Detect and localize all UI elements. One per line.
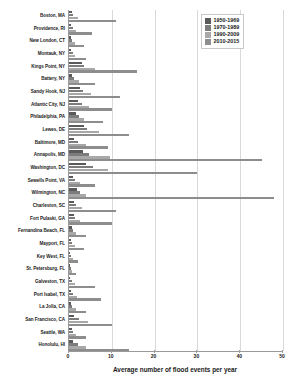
x-tick-label: 0 [67,353,70,359]
category-label: Philadelphia, PA [0,115,65,120]
category-label: Montauk, NY [0,52,65,57]
legend-swatch-icon [205,32,211,38]
legend-label: 1950-1969 [214,18,240,23]
bar-group [69,86,282,99]
category-label: Sandy Hook, NJ [0,90,65,95]
bar-group [69,61,282,74]
bar-group [69,175,282,188]
category-label: Honolulu, HI [0,343,65,348]
category-label: St. Petersburg, FL [0,267,65,272]
legend-item[interactable]: 1970-1989 [205,25,239,31]
category-label: Port Isabel, TX [0,293,65,298]
flood-events-bar-chart: Boston, MAProvidence, RINew London, CTMo… [0,0,288,390]
bar-group [69,238,282,251]
legend-label: 1990-2009 [214,32,240,37]
bar-group [69,48,282,61]
category-label: Galveston, TX [0,280,65,285]
bar-group [69,225,282,238]
bar-group [69,301,282,314]
bar-group [69,23,282,36]
bar-group [69,137,282,150]
category-label: Boston, MA [0,14,65,19]
bar-group [69,149,282,162]
x-tick-label: 20 [151,353,157,359]
x-tick-label: 10 [108,353,114,359]
category-label: Charleston, SC [0,204,65,209]
bar-group [69,314,282,327]
bar-group [69,10,282,23]
bar-rows [69,10,282,351]
category-label: Sewells Point, VA [0,179,65,184]
bar-group [69,162,282,175]
category-label: La Jolla, CA [0,305,65,310]
category-label: Atlantic City, NJ [0,103,65,108]
category-label: Battery, NY [0,77,65,82]
bar-group [69,263,282,276]
legend-swatch-icon [205,18,211,24]
bar-group [69,200,282,213]
category-label: Mayport, FL [0,242,65,247]
x-tick-label: 50 [279,353,285,359]
category-axis-labels: Boston, MAProvidence, RINew London, CTMo… [0,10,65,352]
x-tick-label: 40 [236,353,242,359]
gridline [283,10,284,351]
bar-group [69,276,282,289]
category-label: New London, CT [0,39,65,44]
legend-swatch-icon [205,25,211,31]
x-axis-ticks: 01020304050 [68,353,282,363]
bar-group [69,327,282,340]
bar-group [69,111,282,124]
legend-label: 2010-2015 [214,39,240,44]
category-label: Providence, RI [0,27,65,32]
category-label: Seattle, WA [0,331,65,336]
category-label: Lewes, DE [0,128,65,133]
category-label: Fernandina Beach, FL [0,229,65,234]
x-tick-label: 30 [194,353,200,359]
category-label: Washington, DC [0,166,65,171]
bar-group [69,99,282,112]
bar-group [69,73,282,86]
bar-group [69,187,282,200]
legend-swatch-icon [205,39,211,45]
bar-group [69,35,282,48]
legend-item[interactable]: 1950-1969 [205,18,239,24]
legend-item[interactable]: 2010-2015 [205,39,239,45]
bar [69,349,129,351]
category-label: San Francisco, CA [0,318,65,323]
category-label: Fort Pulaski, GA [0,217,65,222]
category-label: Key West, FL [0,255,65,260]
x-axis-title: Average number of flood events per year [68,366,282,373]
bar-group [69,213,282,226]
plot-area [68,10,282,352]
legend-item[interactable]: 1990-2009 [205,32,239,38]
bar-group [69,124,282,137]
category-label: Annapolis, MD [0,153,65,158]
category-label: Kings Point, NY [0,65,65,70]
legend: 1950-19691970-19891990-20092010-2015 [201,14,244,49]
category-label: Wilmington, NC [0,191,65,196]
bar-group [69,339,282,352]
category-label: Baltimore, MD [0,141,65,146]
legend-label: 1970-1989 [214,25,240,30]
bar-group [69,289,282,302]
bar-group [69,251,282,264]
